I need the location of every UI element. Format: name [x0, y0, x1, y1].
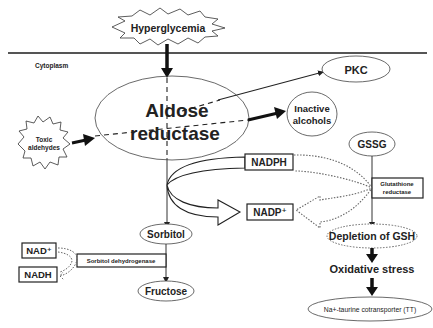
- nadh-label: NADH: [24, 269, 52, 280]
- inactive-alcohols-node: [287, 92, 337, 136]
- cytoplasm-label: Cytoplasm: [35, 62, 68, 70]
- aldehydes-label: aldehydes: [28, 144, 60, 152]
- reductase-label: reductase: [130, 123, 220, 144]
- glutathione-cofactor-cycle: [294, 155, 372, 228]
- aldose-label: Aldose: [145, 100, 208, 121]
- depletion-gsh-label: Depletion of GSH: [329, 230, 415, 242]
- glutathione-label: Glutathione: [380, 181, 414, 187]
- nadph-label: NADPH: [251, 157, 287, 168]
- nad-label: NAD⁺: [26, 245, 52, 256]
- toxic-aldehydes-burst: Toxic aldehydes: [18, 116, 70, 169]
- oxidative-stress-label: Oxidative stress: [330, 263, 415, 275]
- nadph-consumption-arrow: [167, 157, 245, 185]
- sorbitol-label: Sorbitol: [147, 229, 185, 240]
- nadp-label: NADP⁺: [253, 207, 287, 218]
- nadp-production-arrow: [167, 185, 240, 225]
- taurine-cotransporter-label: Na+-taurine cotransporter (TT): [324, 306, 416, 314]
- polyol-pathway-diagram: Cytoplasm Hyperglycemia Aldose reductase…: [0, 0, 433, 328]
- nad-cofactor-arrow: [58, 248, 77, 280]
- inactive-label: Inactive: [294, 103, 329, 114]
- pkc-label: PKC: [344, 64, 367, 76]
- hyperglycemia-label: Hyperglycemia: [131, 22, 206, 34]
- alcohols-label: alcohols: [293, 115, 332, 126]
- toxic-label: Toxic: [36, 136, 53, 143]
- nad-cofactor-arrow-inner: [58, 252, 72, 272]
- reductase-label-2: reductase: [383, 189, 412, 195]
- depletion-arrowhead: [366, 254, 378, 263]
- arrow-to-inactive-alcohols: [248, 113, 278, 120]
- gssg-label: GSSG: [358, 139, 387, 150]
- toxic-arrow: [72, 140, 86, 143]
- inactive-arrowhead: [274, 107, 286, 119]
- hyperglycemia-burst: Hyperglycemia: [112, 8, 225, 45]
- fructose-label: Fructose: [145, 286, 188, 297]
- sorbitol-dehydrogenase-label: Sorbitol dehydrogenase: [87, 258, 156, 264]
- oxidative-arrowhead: [366, 287, 378, 296]
- toxic-arrowhead: [83, 134, 95, 146]
